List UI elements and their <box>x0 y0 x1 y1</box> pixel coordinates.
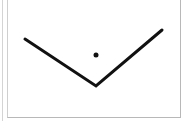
angle-lines <box>25 30 162 86</box>
vertex-dot <box>94 53 99 58</box>
angle-diagram <box>0 0 183 121</box>
